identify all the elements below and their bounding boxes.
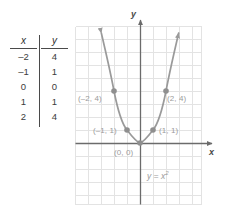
grid-lines: [76, 27, 202, 205]
point-label-2-4: (2, 4): [167, 94, 186, 103]
x-axis-label: x: [209, 147, 214, 157]
equation-label: y = x2: [147, 170, 169, 181]
graph-figure: x y –2 4 –1 1 0 0 1 1: [0, 0, 232, 219]
axes: [76, 20, 213, 205]
point-label-neg1-1: (–1, 1): [93, 126, 117, 135]
data-point: [137, 140, 143, 146]
y-axis-label: y: [131, 9, 136, 19]
data-point: [163, 88, 169, 94]
equation-exponent: 2: [165, 170, 168, 176]
point-label-neg2-4: (–2, 4): [78, 94, 102, 103]
data-point: [124, 127, 130, 133]
equation-base: y = x: [147, 171, 165, 181]
coordinate-plane: (–2, 4) (–1, 1) (0, 0) (1, 1) (2, 4) y x…: [0, 0, 232, 219]
point-label-1-1: (1, 1): [159, 126, 178, 135]
data-point: [111, 88, 117, 94]
data-point: [150, 127, 156, 133]
point-label-0-0: (0, 0): [114, 148, 133, 157]
